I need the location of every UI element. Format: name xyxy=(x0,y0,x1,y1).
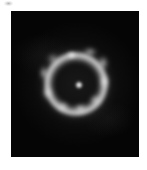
ring-knot xyxy=(82,47,98,57)
ring-knot xyxy=(47,53,59,65)
ring-knot xyxy=(89,94,102,106)
corner-smudge-artifact xyxy=(4,1,13,6)
sky-image-panel xyxy=(11,11,139,157)
ring-knot xyxy=(99,73,110,90)
figure-root xyxy=(0,0,147,170)
ring-knot xyxy=(39,65,49,81)
ring-knot xyxy=(42,86,53,100)
ring-knot xyxy=(56,101,70,112)
ring-knot xyxy=(97,55,109,71)
ring-halo-glow xyxy=(32,40,120,128)
gravitational-lens-system xyxy=(11,11,139,157)
central-point-source xyxy=(74,80,84,90)
einstein-ring xyxy=(39,47,114,122)
ring-knot xyxy=(65,50,78,60)
ring-knot xyxy=(73,103,88,114)
